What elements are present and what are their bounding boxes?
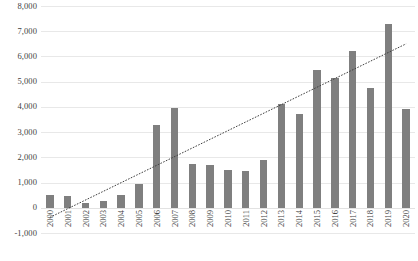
- x-axis-tick: 2020: [397, 208, 415, 242]
- y-axis-tick-label: 4,000: [0, 102, 37, 111]
- x-axis-tick: 2016: [326, 208, 344, 242]
- x-axis-tick: 2007: [166, 208, 184, 242]
- y-axis-tick-label: 3,000: [0, 128, 37, 137]
- bar: [206, 165, 213, 208]
- x-axis-tick-label: 2003: [99, 210, 108, 227]
- y-axis-tick-label: 1,000: [0, 178, 37, 187]
- x-axis-tick: 2006: [148, 208, 166, 242]
- x-axis-tick-label: 2012: [260, 210, 269, 227]
- x-axis-tick: 2017: [344, 208, 362, 242]
- x-axis-tick-label: 2017: [349, 210, 358, 227]
- y-axis-labels: 8,0007,0006,0005,0004,0003,0002,0001,000…: [0, 0, 37, 261]
- bar: [313, 70, 320, 207]
- bar: [224, 170, 231, 208]
- x-axis-tick: 2013: [273, 208, 291, 242]
- bar: [260, 160, 267, 208]
- bar: [64, 196, 71, 208]
- x-axis-tick: 2012: [255, 208, 273, 242]
- y-axis-tick-label: 7,000: [0, 27, 37, 36]
- bar: [189, 164, 196, 208]
- x-axis-tick-label: 2002: [82, 210, 91, 227]
- bar: [367, 88, 374, 208]
- y-axis-tick-label: 0: [0, 203, 37, 212]
- bar: [46, 195, 53, 208]
- bar: [296, 114, 303, 207]
- x-axis-tick: 2005: [130, 208, 148, 242]
- x-axis-tick: 2004: [112, 208, 130, 242]
- y-axis-tick-label: 5,000: [0, 77, 37, 86]
- x-axis-tick-label: 2009: [206, 210, 215, 227]
- bar: [331, 78, 338, 208]
- bar: [385, 24, 392, 208]
- bar: [402, 109, 409, 207]
- x-axis-tick-label: 2018: [366, 210, 375, 227]
- x-axis-tick-label: 2014: [295, 210, 304, 227]
- bar-series: 2000200120022003200420052006200720082009…: [41, 6, 415, 233]
- x-axis-tick: 2011: [237, 208, 255, 242]
- x-axis-tick: 2000: [41, 208, 59, 242]
- plot-area: 2000200120022003200420052006200720082009…: [41, 6, 415, 233]
- x-axis-tick-label: 2019: [384, 210, 393, 227]
- x-axis-tick-label: 2008: [188, 210, 197, 227]
- y-axis-tick-label: 8,000: [0, 2, 37, 11]
- x-axis-tick-label: 2001: [64, 210, 73, 227]
- x-axis-tick-label: 2016: [331, 210, 340, 227]
- x-axis-tick: 2009: [201, 208, 219, 242]
- x-axis-tick-label: 2010: [224, 210, 233, 227]
- bar: [171, 108, 178, 208]
- x-axis-tick-label: 2000: [46, 210, 55, 227]
- bar: [135, 184, 142, 208]
- bar: [153, 125, 160, 208]
- x-axis-tick-label: 2020: [402, 210, 411, 227]
- x-axis-tick-label: 2006: [153, 210, 162, 227]
- y-axis-tick-label: 2,000: [0, 153, 37, 162]
- bar: [278, 104, 285, 207]
- x-axis-tick: 2010: [219, 208, 237, 242]
- y-axis-tick-label: 6,000: [0, 52, 37, 61]
- x-axis-tick: 2018: [362, 208, 380, 242]
- x-axis-tick: 2019: [379, 208, 397, 242]
- x-axis-tick-label: 2011: [242, 210, 251, 227]
- bar: [242, 171, 249, 208]
- x-axis-tick: 2002: [77, 208, 95, 242]
- x-axis-tick-label: 2007: [171, 210, 180, 227]
- x-axis-tick-label: 2005: [135, 210, 144, 227]
- x-axis-tick-label: 2015: [313, 210, 322, 227]
- x-axis-tick: 2015: [308, 208, 326, 242]
- x-axis-tick: 2008: [183, 208, 201, 242]
- bar: [349, 51, 356, 207]
- y-axis-tick-label: -1,000: [0, 229, 37, 238]
- x-axis-tick-label: 2013: [277, 210, 286, 227]
- x-axis-tick: 2014: [290, 208, 308, 242]
- x-axis-tick: 2003: [94, 208, 112, 242]
- x-axis-tick-label: 2004: [117, 210, 126, 227]
- bar-chart: 8,0007,0006,0005,0004,0003,0002,0001,000…: [0, 0, 418, 261]
- x-axis-tick: 2001: [59, 208, 77, 242]
- bar: [117, 195, 124, 208]
